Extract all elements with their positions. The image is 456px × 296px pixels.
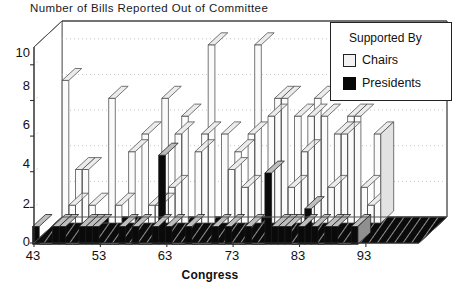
legend-item-presidents[interactable]: Presidents (343, 76, 421, 90)
legend-swatch-presidents-icon (343, 77, 356, 90)
legend: Supported By Chairs Presidents (330, 22, 452, 101)
chart-root: Number of Bills Reported Out of Committe… (0, 0, 456, 296)
legend-label-chairs: Chairs (362, 53, 398, 67)
legend-swatch-chairs-icon (343, 54, 356, 67)
legend-title: Supported By (349, 31, 422, 45)
legend-label-presidents: Presidents (362, 76, 421, 90)
legend-item-chairs[interactable]: Chairs (343, 53, 398, 67)
